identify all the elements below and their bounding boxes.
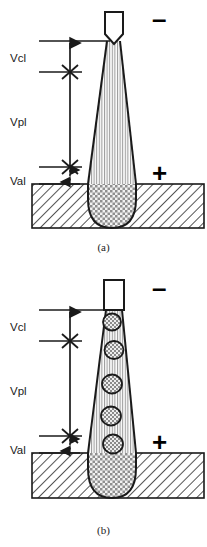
diagram-b: – + Vcl Vpl xyxy=(0,268,207,518)
dimension-label-vpl-a: Vpl xyxy=(10,116,27,128)
workpiece-polarity-sign-a: + xyxy=(152,158,167,188)
arc-column-a xyxy=(88,41,136,184)
dimension-vpl-a: Vpl xyxy=(10,70,78,174)
electrode-b xyxy=(104,280,124,310)
diagram-a: – + Vcl Vpl xyxy=(0,0,207,240)
weld-pool-b xyxy=(88,453,136,498)
figure-panel-a: – + Vcl Vpl xyxy=(0,0,207,268)
dimension-label-vcl-b: Vcl xyxy=(10,321,26,333)
electrode-a xyxy=(105,12,123,44)
droplet-1 xyxy=(103,314,121,331)
droplet-4 xyxy=(101,407,121,426)
figure-caption-a: (a) xyxy=(0,241,207,253)
electrode-polarity-sign-a: – xyxy=(152,4,166,34)
dimension-vcl-b: Vcl xyxy=(10,312,78,348)
electrode-polarity-sign-b: – xyxy=(152,273,166,303)
dimension-vpl-b: Vpl xyxy=(10,339,78,443)
figure-panel-b: – + Vcl Vpl xyxy=(0,268,207,547)
workpiece-polarity-sign-b: + xyxy=(152,427,167,457)
droplet-3 xyxy=(102,375,122,394)
dimension-vcl-a: Vcl xyxy=(10,43,78,79)
droplet-2 xyxy=(105,341,124,359)
figure-caption-b: (b) xyxy=(0,524,207,536)
dimension-label-vcl-a: Vcl xyxy=(10,52,26,64)
dimension-label-val-a: Val xyxy=(10,175,26,187)
dimension-label-val-b: Val xyxy=(10,444,26,456)
electrode-body-a xyxy=(105,12,123,44)
weld-pool-a xyxy=(88,184,136,228)
droplet-5 xyxy=(103,435,123,454)
dimension-label-vpl-b: Vpl xyxy=(10,385,27,397)
electrode-body-b xyxy=(104,280,124,310)
